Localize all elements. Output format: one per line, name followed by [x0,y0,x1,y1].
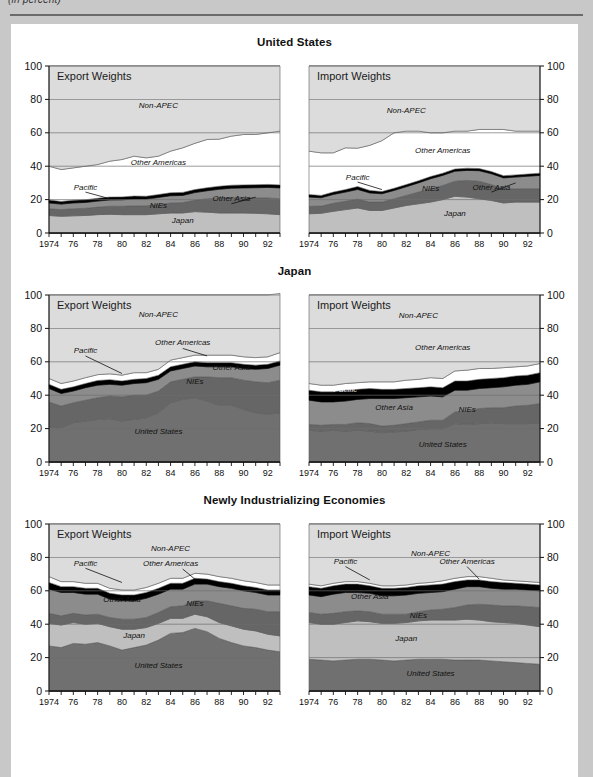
svg-text:80: 80 [377,468,387,478]
svg-text:80: 80 [117,468,127,478]
svg-text:90: 90 [239,468,249,478]
svg-text:Other Asia: Other Asia [213,194,251,203]
svg-text:82: 82 [401,468,411,478]
svg-text:United States: United States [134,661,182,670]
svg-text:60: 60 [30,355,42,367]
svg-text:88: 88 [214,697,224,707]
svg-text:80: 80 [117,697,127,707]
svg-text:NIEs: NIEs [150,201,167,210]
svg-text:20: 20 [30,193,42,205]
svg-text:Japan: Japan [171,216,194,225]
svg-text:76: 76 [68,697,78,707]
svg-text:Other Americas: Other Americas [439,557,494,566]
svg-text:NIEs: NIEs [458,405,475,414]
svg-text:Pacific: Pacific [74,559,98,568]
svg-text:60: 60 [30,584,42,596]
svg-text:92: 92 [263,697,273,707]
svg-text:78: 78 [93,468,103,478]
svg-text:NIEs: NIEs [186,599,203,608]
svg-text:92: 92 [263,239,273,249]
svg-text:90: 90 [499,239,509,249]
svg-text:Export Weights: Export Weights [57,70,132,82]
svg-text:Import Weights: Import Weights [317,528,391,540]
svg-text:0: 0 [36,685,42,697]
svg-text:82: 82 [401,697,411,707]
svg-text:60: 60 [547,126,559,138]
chart-us-import: 0204060801001974767880828486889092Import… [295,48,578,263]
chart-row-japan: 0204060801001974767880828486889092Export… [11,277,578,492]
svg-text:100: 100 [547,60,565,72]
svg-text:NIEs: NIEs [186,377,203,386]
section-title-japan: Japan [11,265,578,277]
svg-text:60: 60 [547,355,559,367]
svg-text:90: 90 [499,697,509,707]
svg-text:40: 40 [30,389,42,401]
svg-text:84: 84 [166,239,176,249]
svg-text:United States: United States [134,427,182,436]
svg-text:86: 86 [190,239,200,249]
svg-text:82: 82 [141,697,151,707]
svg-text:76: 76 [68,468,78,478]
svg-text:40: 40 [30,160,42,172]
svg-text:1974: 1974 [39,468,59,478]
svg-text:80: 80 [117,239,127,249]
chart-japan-import: 0204060801001974767880828486889092Import… [295,277,578,492]
svg-text:78: 78 [353,239,363,249]
svg-text:Import Weights: Import Weights [317,299,391,311]
svg-text:Other Asia: Other Asia [375,403,413,412]
svg-text:80: 80 [30,551,42,563]
units-caption: (in percent) [8,0,61,5]
svg-text:Export Weights: Export Weights [57,528,132,540]
svg-text:76: 76 [68,239,78,249]
svg-text:80: 80 [30,93,42,105]
chart-row-nies: 0204060801001974767880828486889092Export… [11,506,578,721]
svg-text:Japan: Japan [443,209,466,218]
svg-text:0: 0 [547,456,553,468]
svg-text:40: 40 [547,389,559,401]
svg-text:Japan: Japan [394,634,417,643]
svg-text:80: 80 [547,322,559,334]
header-rule [10,14,583,16]
svg-text:Japan: Japan [122,631,145,640]
svg-text:92: 92 [523,697,533,707]
svg-text:84: 84 [426,468,436,478]
svg-text:90: 90 [499,468,509,478]
svg-text:86: 86 [450,239,460,249]
svg-text:Export Weights: Export Weights [57,299,132,311]
svg-text:NIEs: NIEs [422,184,439,193]
svg-text:20: 20 [547,193,559,205]
svg-text:Pacific: Pacific [334,557,358,566]
svg-text:92: 92 [523,239,533,249]
svg-text:1974: 1974 [39,239,59,249]
svg-text:92: 92 [523,468,533,478]
svg-text:20: 20 [547,422,559,434]
svg-text:88: 88 [214,239,224,249]
svg-text:90: 90 [239,239,249,249]
svg-text:86: 86 [190,468,200,478]
svg-text:78: 78 [353,697,363,707]
svg-text:Other Americas: Other Americas [155,338,210,347]
svg-text:78: 78 [353,468,363,478]
svg-text:Non-APEC: Non-APEC [139,101,178,110]
chart-japan-export: 0204060801001974767880828486889092Export… [11,277,294,492]
svg-text:Non-APEC: Non-APEC [387,106,426,115]
svg-text:86: 86 [450,468,460,478]
svg-text:88: 88 [474,697,484,707]
svg-text:92: 92 [263,468,273,478]
figure-panel: United States 02040608010019747678808284… [11,24,578,777]
svg-text:78: 78 [93,239,103,249]
svg-text:1974: 1974 [299,239,319,249]
svg-text:60: 60 [30,126,42,138]
svg-text:Pacific: Pacific [346,173,370,182]
svg-text:Other Americas: Other Americas [415,146,470,155]
chart-nies-export: 0204060801001974767880828486889092Export… [11,506,294,721]
svg-text:82: 82 [401,239,411,249]
svg-text:Non-APEC: Non-APEC [151,544,190,553]
svg-text:76: 76 [328,468,338,478]
svg-text:80: 80 [547,93,559,105]
svg-text:Import Weights: Import Weights [317,70,391,82]
svg-text:1974: 1974 [299,468,319,478]
svg-text:88: 88 [474,468,484,478]
svg-text:0: 0 [36,227,42,239]
svg-text:Non-APEC: Non-APEC [139,310,178,319]
